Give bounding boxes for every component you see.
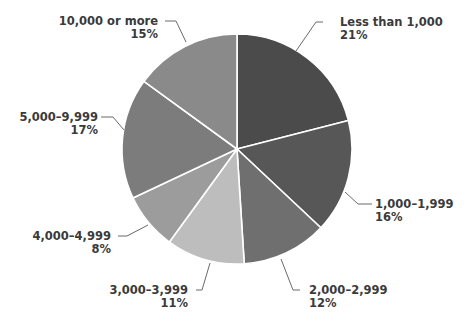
slice-label-pct: 16% bbox=[375, 211, 454, 224]
slice-label-1000-1999: 1,000–1,999 16% bbox=[375, 198, 454, 224]
pie-chart bbox=[0, 0, 467, 329]
leader-line-5000-9999 bbox=[101, 117, 124, 130]
slice-label-pct: 8% bbox=[32, 243, 111, 256]
slice-label-pct: 21% bbox=[340, 29, 443, 42]
slice-label-10000-plus: 10,000 or more 15% bbox=[59, 15, 158, 41]
leader-line-less-than-1000 bbox=[296, 22, 323, 51]
slice-label-pct: 15% bbox=[59, 28, 158, 41]
slice-label-pct: 12% bbox=[309, 297, 388, 310]
slice-label-pct: 17% bbox=[19, 124, 98, 137]
leader-line-10000-plus bbox=[165, 21, 186, 42]
leader-line-4000-4999 bbox=[118, 225, 148, 236]
slice-label-5000-9999: 5,000–9,999 17% bbox=[19, 111, 98, 137]
slice-label-2000-2999: 2,000–2,999 12% bbox=[309, 284, 388, 310]
slice-label-4000-4999: 4,000–4,999 8% bbox=[32, 230, 111, 256]
pie-slices bbox=[122, 34, 352, 264]
leader-line-3000-3999 bbox=[196, 263, 210, 290]
slice-label-3000-3999: 3,000–3,999 11% bbox=[109, 284, 188, 310]
leader-line-2000-2999 bbox=[281, 259, 300, 290]
slice-label-less-than-1000: Less than 1,000 21% bbox=[340, 16, 443, 42]
slice-label-pct: 11% bbox=[109, 297, 188, 310]
leader-line-1000-1999 bbox=[345, 192, 372, 204]
